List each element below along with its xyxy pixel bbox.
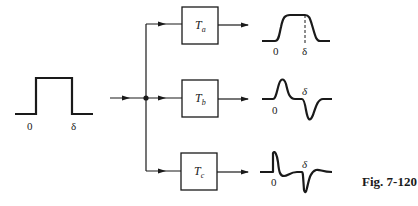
output-a-label-zero: 0	[273, 45, 279, 57]
block-tb-subscript: b	[202, 98, 206, 107]
input-label-delta: δ	[71, 120, 76, 132]
block-ta: Ta	[182, 7, 218, 44]
branch-a	[146, 22, 182, 27]
output-waveform-b: 0 δ	[262, 80, 332, 120]
output-b-label-zero: 0	[272, 104, 278, 116]
output-c-label-zero: 0	[271, 176, 277, 188]
arrowhead-icon	[122, 96, 130, 101]
output-c-label-delta: δ	[302, 158, 308, 170]
output-arrow-a	[218, 23, 249, 28]
branch-c	[146, 169, 182, 174]
block-tc: Tc	[181, 153, 217, 190]
output-b-label-delta: δ	[302, 85, 308, 97]
block-tb: Tb	[182, 80, 218, 117]
output-waveform-a: 0 δ	[262, 15, 330, 57]
branch-b	[146, 96, 182, 101]
block-tc-subscript: c	[201, 171, 205, 180]
output-arrow-c	[217, 170, 249, 175]
output-waveform-c: 0 δ	[260, 152, 332, 192]
block-ta-subscript: a	[202, 25, 206, 34]
input-arrow	[110, 96, 146, 101]
output-arrow-b	[218, 97, 249, 102]
input-label-zero: 0	[27, 120, 33, 132]
block-diagram: 0 δ Ta Tb Tc	[0, 0, 418, 206]
output-a-label-delta: δ	[302, 45, 307, 57]
input-pulse: 0 δ	[15, 78, 93, 132]
figure-caption: Fig. 7-120	[362, 174, 417, 190]
